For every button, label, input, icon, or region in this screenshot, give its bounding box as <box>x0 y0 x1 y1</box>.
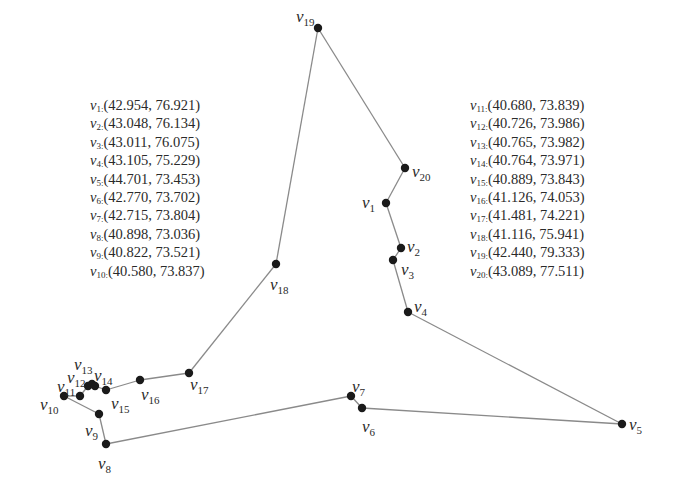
edge-v8-v9 <box>99 414 106 444</box>
coordinate-row: v9:(40.822, 73.521) <box>90 243 205 261</box>
vertex-index: 12: <box>476 122 488 132</box>
label-v19: v19 <box>296 7 315 28</box>
label-v3: v3 <box>401 260 415 281</box>
edge-v5-v6 <box>362 408 622 424</box>
label-v13: v13 <box>74 355 93 376</box>
vertex-coordinates: (42.770, 73.702) <box>103 189 200 205</box>
coordinate-row: v17:(41.481, 74.221) <box>470 206 585 224</box>
coordinate-row: v7:(42.715, 73.804) <box>90 206 205 224</box>
vertex-coordinates: (43.011, 76.075) <box>103 134 199 150</box>
vertex-index: 17: <box>476 214 488 224</box>
label-v5: v5 <box>629 415 643 436</box>
vertex-coordinates: (44.701, 73.453) <box>103 171 200 187</box>
edge-v17-v18 <box>189 264 276 373</box>
label-v17: v17 <box>190 375 209 396</box>
edge-v1-v2 <box>386 203 401 248</box>
node-v20 <box>401 164 409 172</box>
vertex-coordinates: (40.898, 73.036) <box>103 226 200 242</box>
vertex-index: 19: <box>476 251 488 261</box>
label-v7: v7 <box>352 377 366 398</box>
coordinate-row: v12:(40.726, 73.986) <box>470 114 585 132</box>
vertex-coordinates: (42.440, 79.333) <box>488 244 585 260</box>
label-v14: v14 <box>94 366 113 387</box>
coordinate-row: v4:(43.105, 75.229) <box>90 151 205 169</box>
vertex-coordinates: (40.822, 73.521) <box>103 244 200 260</box>
vertex-coordinates: (41.481, 74.221) <box>488 207 585 223</box>
vertex-coordinates: (40.726, 73.986) <box>488 115 585 131</box>
label-v4: v4 <box>414 297 428 318</box>
label-v2: v2 <box>407 237 420 258</box>
coordinate-row: v1:(42.954, 76.921) <box>90 96 205 114</box>
vertex-coordinates: (43.105, 75.229) <box>103 152 200 168</box>
coordinate-row: v18:(41.116, 75.941) <box>470 225 585 243</box>
edge-v20-v1 <box>386 168 405 203</box>
coordinate-row: v16:(41.126, 74.053) <box>470 188 585 206</box>
label-v8: v8 <box>98 454 112 475</box>
tour-diagram: v1v2v3v4v5v6v7v8v9v10v11v12v13v14v15v16v… <box>0 0 674 492</box>
vertex-coordinates: (40.680, 73.839) <box>488 97 585 113</box>
node-v8 <box>102 440 110 448</box>
label-v16: v16 <box>141 385 160 406</box>
label-v9: v9 <box>85 421 99 442</box>
node-v11 <box>76 392 84 400</box>
node-v2 <box>397 244 405 252</box>
coordinate-row: v8:(40.898, 73.036) <box>90 225 205 243</box>
edge-v18-v19 <box>276 28 318 264</box>
vertex-coordinates: (41.126, 74.053) <box>488 189 585 205</box>
coordinate-row: v19:(42.440, 79.333) <box>470 243 585 261</box>
node-v16 <box>136 376 144 384</box>
label-v10: v10 <box>40 395 59 416</box>
label-v6: v6 <box>362 417 376 438</box>
node-v6 <box>358 404 366 412</box>
node-v4 <box>404 308 412 316</box>
vertex-index: 15: <box>476 178 488 188</box>
coordinate-row: v5:(44.701, 73.453) <box>90 170 205 188</box>
coordinate-row: v15:(40.889, 73.843) <box>470 170 585 188</box>
vertex-index: 10: <box>96 270 108 280</box>
vertex-coordinates: (41.116, 75.941) <box>488 226 584 242</box>
vertex-index: 14: <box>476 159 488 169</box>
coordinate-row: v13:(40.765, 73.982) <box>470 133 585 151</box>
label-v20: v20 <box>412 162 431 183</box>
coordinate-row: v3:(43.011, 76.075) <box>90 133 205 151</box>
vertex-index: 16: <box>476 196 488 206</box>
coordinate-row: v10:(40.580, 73.837) <box>90 262 205 280</box>
vertex-coordinates: (40.765, 73.982) <box>488 134 585 150</box>
coordinate-list-left: v1:(42.954, 76.921)v2:(43.048, 76.134)v3… <box>90 96 205 280</box>
label-v15: v15 <box>111 394 130 415</box>
node-v18 <box>272 260 280 268</box>
coordinate-row: v20:(43.089, 77.511) <box>470 262 585 280</box>
vertex-coordinates: (42.954, 76.921) <box>103 97 200 113</box>
label-v1: v1 <box>362 193 375 214</box>
vertex-coordinates: (40.580, 73.837) <box>108 263 205 279</box>
edge-v4-v5 <box>408 312 622 424</box>
coordinate-row: v6:(42.770, 73.702) <box>90 188 205 206</box>
vertex-coordinates: (40.764, 73.971) <box>488 152 585 168</box>
node-v9 <box>95 410 103 418</box>
coordinate-row: v2:(43.048, 76.134) <box>90 114 205 132</box>
node-v15 <box>102 386 110 394</box>
vertex-coordinates: (43.048, 76.134) <box>103 115 200 131</box>
vertex-index: 11: <box>476 104 487 114</box>
label-v18: v18 <box>270 275 289 296</box>
node-v1 <box>382 199 390 207</box>
edge-v19-v20 <box>318 28 405 168</box>
node-v5 <box>618 420 626 428</box>
node-v3 <box>389 256 397 264</box>
vertex-coordinates: (43.089, 77.511) <box>488 263 584 279</box>
vertex-index: 20: <box>476 270 488 280</box>
vertex-index: 13: <box>476 141 488 151</box>
node-v19 <box>314 24 322 32</box>
vertex-index: 18: <box>476 233 488 243</box>
vertex-coordinates: (40.889, 73.843) <box>488 171 585 187</box>
edge-v16-v17 <box>140 373 189 380</box>
coordinate-row: v11:(40.680, 73.839) <box>470 96 585 114</box>
coordinate-row: v14:(40.764, 73.971) <box>470 151 585 169</box>
coordinate-list-right: v11:(40.680, 73.839)v12:(40.726, 73.986)… <box>470 96 585 280</box>
vertex-coordinates: (42.715, 73.804) <box>103 207 200 223</box>
